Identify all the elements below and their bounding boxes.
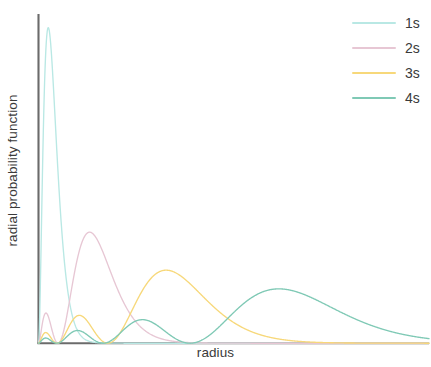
x-axis-title: radius [0,345,431,360]
legend-item-3s[interactable]: 3s [352,60,428,85]
legend: 1s2s3s4s [352,10,428,110]
legend-item-2s[interactable]: 2s [352,35,428,60]
legend-item-1s[interactable]: 1s [352,10,428,35]
legend-swatch-1s [352,22,396,24]
legend-swatch-4s [352,97,396,99]
legend-swatch-3s [352,72,396,74]
y-axis-title-text: radial probability function [5,94,20,246]
legend-swatch-2s [352,47,396,49]
legend-label-3s: 3s [405,66,420,80]
y-axis-title: radial probability function [0,0,24,340]
legend-label-1s: 1s [405,16,420,30]
legend-label-2s: 2s [405,41,420,55]
curve-2s [39,232,430,343]
radial-probability-chart: radial probability function radius 1s2s3… [0,0,431,367]
legend-item-4s[interactable]: 4s [352,85,428,110]
x-axis-title-text: radius [197,345,234,360]
legend-label-4s: 4s [405,91,420,105]
curve-3s [39,270,430,343]
